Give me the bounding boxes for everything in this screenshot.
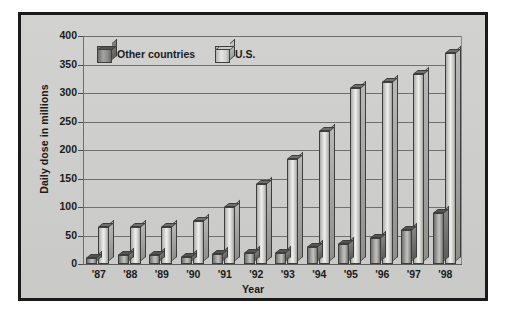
bar-side-face	[444, 206, 449, 261]
y-tick-label: 100	[37, 201, 77, 212]
legend-item[interactable]: Other countries	[97, 40, 195, 68]
bar-group	[307, 35, 330, 264]
bar-side-face	[361, 81, 366, 261]
bar-other-countries[interactable]	[212, 254, 223, 264]
bar-group	[118, 35, 141, 264]
bar-group	[212, 35, 235, 264]
bar-front-face	[149, 255, 160, 264]
bar-us[interactable]	[161, 227, 172, 264]
x-tick-label: '90	[178, 268, 208, 280]
bar-front-face	[433, 213, 444, 264]
x-tick-label: '98	[430, 268, 460, 280]
bar-side-face	[456, 46, 461, 261]
bar-front-face	[212, 254, 223, 264]
bar-other-countries[interactable]	[370, 238, 381, 264]
x-axis-label: Year	[21, 283, 485, 295]
bar-side-face	[330, 124, 335, 261]
bar-group	[401, 35, 424, 264]
chart-figure: Daily dose in millions 05010015020025030…	[0, 0, 505, 319]
legend-item[interactable]: U.S.	[215, 40, 255, 68]
bar-other-countries[interactable]	[181, 257, 192, 264]
bar-other-countries[interactable]	[86, 258, 97, 264]
legend-label: Other countries	[117, 48, 195, 60]
bar-side-face	[235, 200, 240, 261]
bar-group	[338, 35, 361, 264]
bar-side-face	[298, 151, 303, 261]
bar-side-face	[393, 74, 398, 261]
bar-other-countries[interactable]	[338, 244, 349, 264]
y-tick-label: 400	[37, 30, 77, 41]
bar-front-face	[118, 255, 129, 264]
bar-other-countries[interactable]	[244, 253, 255, 264]
x-tick-label: '94	[304, 268, 334, 280]
bar-other-countries[interactable]	[149, 255, 160, 264]
y-tick-label: 0	[37, 258, 77, 269]
x-tick-label: '96	[367, 268, 397, 280]
x-tick-label: '89	[147, 268, 177, 280]
y-tick-label: 350	[37, 59, 77, 70]
bar-front-face	[307, 247, 318, 264]
bar-side-face	[204, 214, 209, 261]
bar-us[interactable]	[98, 227, 109, 264]
bar-front-face	[244, 253, 255, 264]
bar-group	[275, 35, 298, 264]
x-tick-label: '88	[115, 268, 145, 280]
cube-dark-icon	[97, 46, 112, 63]
bar-other-countries[interactable]	[275, 253, 286, 264]
bar-other-countries[interactable]	[307, 247, 318, 264]
bar-other-countries[interactable]	[118, 255, 129, 264]
bar-front-face	[370, 238, 381, 264]
x-axis-line	[83, 264, 462, 265]
bar-front-face	[338, 244, 349, 264]
legend-label: U.S.	[235, 48, 255, 60]
x-tick-label: '93	[273, 268, 303, 280]
bar-front-face	[98, 227, 109, 264]
bar-front-face	[161, 227, 172, 264]
plot-right-border	[461, 36, 462, 265]
y-tick-label: 150	[37, 173, 77, 184]
cube-light-icon	[215, 46, 230, 63]
bar-group	[181, 35, 204, 264]
y-tick-label: 200	[37, 144, 77, 155]
y-tick-label: 250	[37, 116, 77, 127]
bar-group	[86, 35, 109, 264]
bar-side-face	[267, 177, 272, 261]
bar-front-face	[401, 230, 412, 264]
x-tick-label: '87	[84, 268, 114, 280]
x-tick-label: '91	[210, 268, 240, 280]
bar-front-face	[275, 253, 286, 264]
y-tick-label: 50	[37, 230, 77, 241]
x-tick-label: '97	[399, 268, 429, 280]
chart-panel: Daily dose in millions 05010015020025030…	[21, 15, 485, 298]
bar-side-face	[424, 67, 429, 261]
y-axis-ticks: 050100150200250300350400	[31, 36, 77, 265]
x-tick-label: '95	[336, 268, 366, 280]
bar-front-face	[86, 258, 97, 264]
x-tick-label: '92	[241, 268, 271, 280]
bar-group	[149, 35, 172, 264]
bar-other-countries[interactable]	[401, 230, 412, 264]
bar-front-face	[181, 257, 192, 264]
y-axis-line	[83, 36, 84, 265]
y-tick-label: 300	[37, 87, 77, 98]
chart-frame: Daily dose in millions 05010015020025030…	[18, 12, 488, 301]
bar-group	[433, 35, 456, 264]
bar-group	[370, 35, 393, 264]
bar-other-countries[interactable]	[433, 213, 444, 264]
bar-group	[244, 35, 267, 264]
plot-area	[83, 36, 461, 264]
